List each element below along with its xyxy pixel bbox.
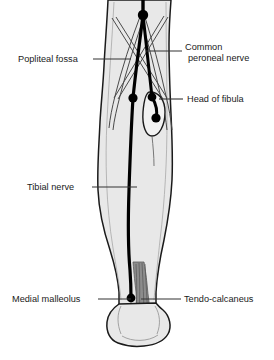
calcaneus-outline xyxy=(107,303,170,346)
leg-silhouette xyxy=(98,0,173,305)
label-head-of-fibula: Head of fibula xyxy=(187,94,245,104)
label-common-peroneal-nerve-line2: peroneal nerve xyxy=(188,53,249,63)
calcaneus-group xyxy=(107,303,170,346)
tibial-branch-node xyxy=(128,93,137,102)
medial-malleolus-node xyxy=(127,294,136,303)
anatomy-diagram-canvas: Popliteal fossa Common peroneal nerve He… xyxy=(0,0,274,360)
anatomy-figure: Popliteal fossa Common peroneal nerve He… xyxy=(0,0,274,360)
leg-silhouette-group xyxy=(98,0,173,305)
peroneal-fibula-neck-node xyxy=(148,93,157,102)
label-tendo-calcaneus: Tendo-calcaneus xyxy=(184,294,254,304)
peroneal-terminal-node xyxy=(151,113,160,122)
label-common-peroneal-nerve-line1: Common xyxy=(185,42,222,52)
popliteal-apex-node xyxy=(138,10,148,20)
label-popliteal-fossa: Popliteal fossa xyxy=(18,54,79,64)
label-tibial-nerve: Tibial nerve xyxy=(27,182,74,192)
label-medial-malleolus: Medial malleolus xyxy=(12,294,81,304)
